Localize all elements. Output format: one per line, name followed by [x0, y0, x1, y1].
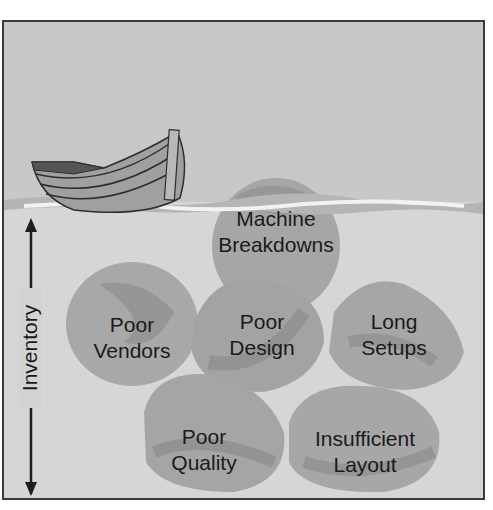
rock-label-long-setups: Long Setups [334, 309, 454, 361]
rock-label-line: Poor [202, 309, 322, 335]
rock-label-line: Poor [72, 312, 192, 338]
rock-label-line: Breakdowns [211, 232, 341, 258]
rock-label-poor-design: Poor Design [202, 309, 322, 361]
rock-label-line: Poor [144, 424, 264, 450]
rock-label-machine-breakdowns: Machine Breakdowns [211, 206, 341, 258]
rock-label-insufficient-layout: Insufficient Layout [300, 426, 430, 478]
rock-label-line: Insufficient [300, 426, 430, 452]
rock-label-poor-vendors: Poor Vendors [72, 312, 192, 364]
diagram-frame: Inventory Machine Breakdowns Poor Vendor… [2, 20, 485, 500]
rock-label-line: Quality [144, 450, 264, 476]
rowboat-icon [32, 130, 185, 213]
rock-label-line: Vendors [72, 338, 192, 364]
rock-label-line: Design [202, 335, 322, 361]
rock-label-line: Long [334, 309, 454, 335]
rock-label-line: Setups [334, 335, 454, 361]
rock-label-poor-quality: Poor Quality [144, 424, 264, 476]
rock-label-line: Layout [300, 452, 430, 478]
rock-label-line: Machine [211, 206, 341, 232]
inventory-axis-label: Inventory [18, 288, 42, 408]
